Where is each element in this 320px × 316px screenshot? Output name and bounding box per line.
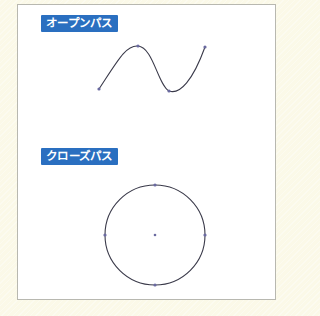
anchor-point-icon — [136, 44, 139, 47]
path-illustrations — [18, 5, 277, 301]
anchor-point-icon — [167, 89, 170, 92]
closed-path — [103, 183, 206, 286]
center-point-icon — [154, 234, 157, 237]
diagram-panel: オープンパス クローズパス — [17, 4, 276, 300]
anchor-point-icon — [203, 45, 206, 48]
open-path — [97, 44, 206, 92]
anchor-point-icon — [103, 233, 106, 236]
anchor-point-icon — [203, 233, 206, 236]
anchor-point-icon — [153, 183, 156, 186]
anchor-point-icon — [153, 283, 156, 286]
anchor-point-icon — [97, 87, 100, 90]
